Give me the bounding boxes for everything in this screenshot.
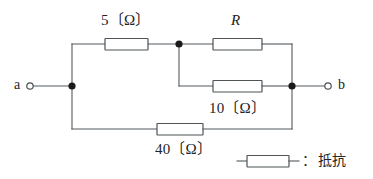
junction-dot-right — [288, 82, 295, 89]
label-resistor-10ohm: 10〔Ω〕 — [209, 101, 266, 116]
label-resistor-40ohm: 40〔Ω〕 — [155, 142, 212, 157]
terminal-b-open-circle — [325, 83, 331, 89]
label-resistor-R: R — [231, 13, 240, 28]
terminal-a-open-circle — [27, 83, 33, 89]
legend-text: 抵抗 — [318, 153, 346, 167]
junction-dot-left — [68, 82, 75, 89]
legend-separator: ： — [302, 153, 316, 167]
circuit-diagram: 5〔Ω〕 R 10〔Ω〕 40〔Ω〕 a b ： 抵抗 — [0, 0, 373, 179]
label-terminal-b: b — [338, 78, 345, 92]
label-terminal-a: a — [14, 78, 20, 92]
resistor-10ohm-body — [213, 81, 262, 93]
label-resistor-5ohm: 5〔Ω〕 — [101, 13, 150, 28]
resistor-R-body — [213, 39, 262, 51]
legend-resistor-body — [247, 156, 289, 168]
junction-dot-mid — [175, 40, 182, 47]
resistor-5ohm-body — [105, 39, 148, 51]
resistor-40ohm-body — [157, 124, 203, 136]
